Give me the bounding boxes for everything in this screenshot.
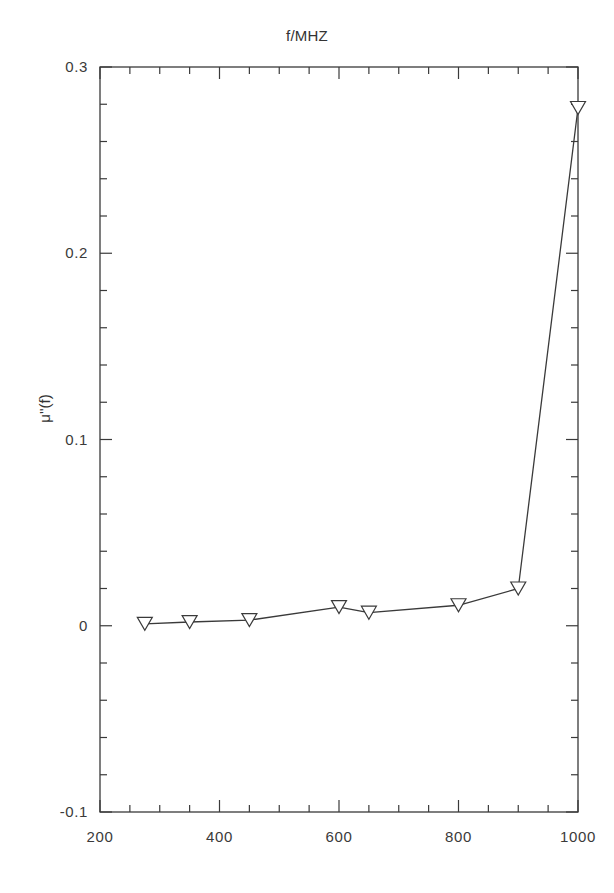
y-tick-label: 0.2 [65, 244, 88, 261]
y-axis-ticks [100, 67, 578, 812]
data-point-marker [511, 582, 526, 595]
data-point-markers [137, 101, 585, 630]
data-series-line [145, 108, 578, 624]
y-tick-label: 0.1 [65, 431, 88, 448]
axis-frame [100, 67, 578, 812]
x-tick-label: 200 [87, 828, 114, 845]
y-axis-label: μ''(f) [36, 379, 53, 439]
data-point-marker [332, 601, 347, 614]
series-line [145, 108, 578, 624]
x-axis-ticks [100, 67, 578, 812]
x-tick-label: 800 [445, 828, 472, 845]
x-tick-label: 400 [206, 828, 233, 845]
plot-svg: 2004006008001000 -0.100.10.20.3 [0, 0, 614, 893]
y-tick-label: 0 [79, 617, 88, 634]
y-tick-label: -0.1 [60, 803, 88, 820]
y-tick-label: 0.3 [65, 58, 88, 75]
x-axis-tick-labels: 2004006008001000 [87, 828, 596, 845]
data-point-marker [571, 101, 586, 114]
chart-title: f/MHZ [0, 27, 614, 44]
x-tick-label: 1000 [560, 828, 596, 845]
y-axis-tick-labels: -0.100.10.20.3 [60, 58, 88, 820]
x-tick-label: 600 [326, 828, 353, 845]
figure-canvas: f/MHZ μ''(f) 2004006008001000 -0.100.10.… [0, 0, 614, 893]
